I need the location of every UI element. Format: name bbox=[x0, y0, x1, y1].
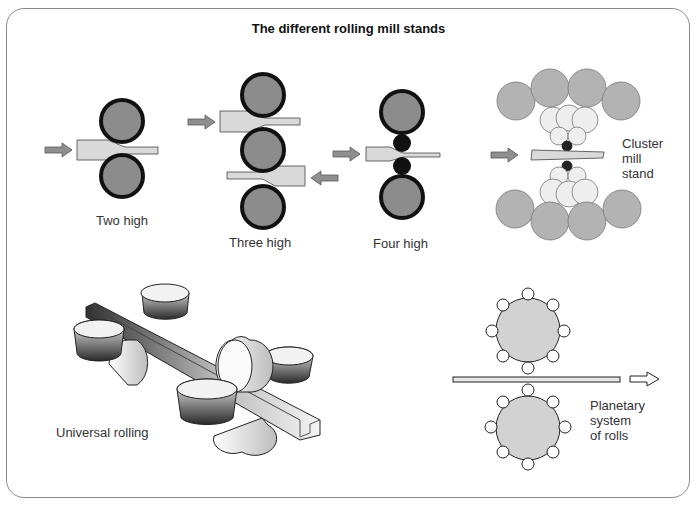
label-two-high: Two high bbox=[96, 213, 148, 228]
cluster-mill-stand bbox=[491, 69, 641, 240]
bottom-roll bbox=[242, 186, 284, 228]
bottom-backup-roll bbox=[381, 176, 423, 218]
strip bbox=[453, 377, 620, 382]
exit-arrow-icon bbox=[630, 372, 659, 386]
three-high-stand bbox=[188, 74, 338, 228]
label-three-high: Three high bbox=[229, 235, 291, 250]
four-high-stand bbox=[333, 91, 440, 218]
label-cluster: Cluster mill stand bbox=[622, 136, 663, 181]
bottom-work-roll bbox=[393, 157, 411, 175]
label-four-high: Four high bbox=[373, 236, 428, 251]
feed-arrow-icon bbox=[188, 115, 215, 129]
feed-arrow-icon bbox=[45, 143, 72, 157]
top-backup-roll bbox=[381, 91, 423, 133]
top-roll bbox=[101, 100, 143, 142]
feed-arrow-icon bbox=[333, 147, 360, 161]
two-high-stand bbox=[45, 100, 158, 197]
strip bbox=[531, 150, 604, 160]
return-arrow-icon bbox=[311, 171, 338, 185]
label-universal: Universal rolling bbox=[56, 425, 148, 440]
feed-arrow-icon bbox=[491, 148, 518, 162]
top-roll bbox=[242, 74, 284, 116]
label-planetary: Planetary system of rolls bbox=[590, 398, 645, 443]
middle-roll bbox=[242, 129, 284, 171]
bottom-roll bbox=[101, 155, 143, 197]
top-work-roll bbox=[393, 134, 411, 152]
